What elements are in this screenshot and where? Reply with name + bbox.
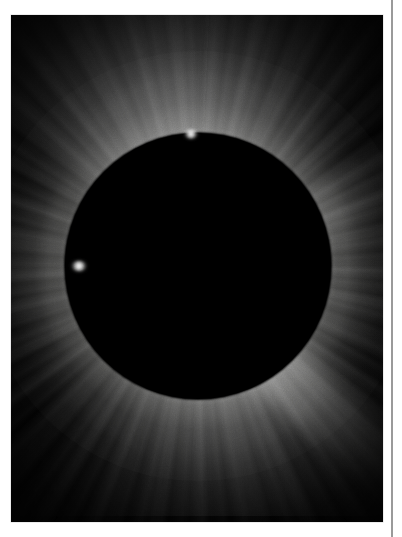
document-page [0,0,402,537]
eclipse-photograph [11,15,383,522]
lunar-occulting-disk [65,133,331,399]
solar-prominence-north-limb [184,129,198,139]
column-separator-rule [391,0,393,537]
solar-prominence-west-limb [71,261,87,272]
